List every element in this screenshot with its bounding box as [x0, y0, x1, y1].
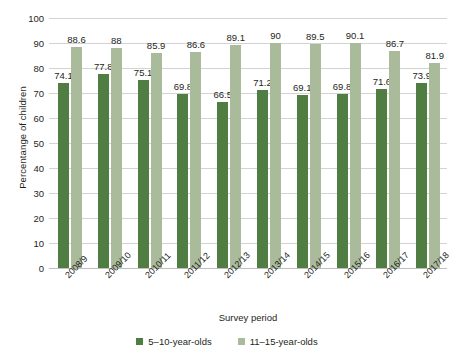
bar-value-label: 69.8: [333, 81, 352, 92]
bar-value-label: 85.9: [147, 40, 166, 51]
bar-group: 71.290: [248, 18, 288, 268]
legend-swatch-icon: [136, 338, 143, 345]
bar-value-label: 75.1: [134, 67, 153, 78]
bar-value-label: 71.2: [253, 77, 272, 88]
x-axis-tick-cell: 2015/16: [328, 271, 368, 307]
bar-group: 73.981.9: [407, 18, 447, 268]
x-axis-tick-cell: 2013/14: [248, 271, 288, 307]
bar-value-label: 90: [270, 30, 281, 41]
bar-group: 71.686.7: [367, 18, 407, 268]
bar-value-label: 88: [111, 35, 122, 46]
bar-chart-figure: Percentange of children 1009080706050403…: [0, 0, 454, 359]
y-axis-tick-label: 100: [28, 13, 44, 24]
x-axis-tick-cell: 2017/18: [407, 271, 447, 307]
bar-value-label: 90.1: [346, 30, 365, 41]
bar-group: 66.589.1: [208, 18, 248, 268]
bar-value-label: 89.1: [226, 32, 245, 43]
plot-area: 1009080706050403020100 74.188.677.88875.…: [49, 18, 447, 268]
y-axis-tick-label: 10: [33, 238, 44, 249]
bar: 69.1: [297, 95, 308, 268]
legend-item[interactable]: 5–10-year-olds: [136, 336, 211, 347]
bar-group: 69.886.6: [168, 18, 208, 268]
bar: 71.2: [257, 90, 268, 268]
bar: 66.5: [217, 102, 228, 268]
bar: 86.7: [389, 51, 400, 268]
bar: 73.9: [416, 83, 427, 268]
x-axis-tick-cell: 2011/12: [168, 271, 208, 307]
y-axis-tick-label: 80: [33, 63, 44, 74]
y-axis-title: Percentange of children: [17, 58, 28, 218]
x-axis-tick-cell: 2009/10: [89, 271, 129, 307]
legend-swatch-icon: [238, 338, 245, 345]
bar-value-label: 77.8: [94, 61, 113, 72]
bar-value-label: 89.5: [306, 31, 325, 42]
bar-group: 69.890.1: [328, 18, 368, 268]
bar: 85.9: [151, 53, 162, 268]
bar: 89.1: [230, 45, 241, 268]
y-axis-tick-label: 0: [39, 263, 44, 274]
bar: 86.6: [190, 52, 201, 269]
x-axis-tick-cell: 2014/15: [288, 271, 328, 307]
bar: 89.5: [310, 44, 321, 268]
x-axis-tick-cell: 2016/17: [367, 271, 407, 307]
bar: 88.6: [71, 47, 82, 269]
bar: 90: [270, 43, 281, 268]
bar-value-label: 86.6: [187, 39, 206, 50]
y-axis-tick-label: 90: [33, 38, 44, 49]
bar: 69.8: [337, 94, 348, 269]
bar: 90.1: [350, 43, 361, 268]
bar-value-label: 71.6: [373, 76, 392, 87]
legend-label: 5–10-year-olds: [148, 336, 211, 347]
bar: 75.1: [138, 80, 149, 268]
y-axis-tick-label: 20: [33, 213, 44, 224]
bar: 69.8: [177, 94, 188, 269]
y-axis-tick-label: 70: [33, 88, 44, 99]
y-axis-tick-label: 60: [33, 113, 44, 124]
bar-value-label: 81.9: [425, 50, 444, 61]
bar: 71.6: [376, 89, 387, 268]
bar-group: 77.888: [89, 18, 129, 268]
y-axis-tick-label: 40: [33, 163, 44, 174]
x-axis-tick-labels: 2008/92009/102010/112011/122012/132013/1…: [49, 271, 447, 307]
legend-label: 11–15-year-olds: [250, 336, 318, 347]
bar-value-label: 66.5: [213, 89, 232, 100]
bar: 74.1: [58, 83, 69, 268]
bar-value-label: 86.7: [386, 38, 405, 49]
bar-value-label: 69.1: [293, 82, 312, 93]
legend-item[interactable]: 11–15-year-olds: [238, 336, 318, 347]
bar: 77.8: [98, 74, 109, 269]
x-axis-title: Survey period: [49, 312, 447, 323]
bar-value-label: 73.9: [412, 70, 431, 81]
bar: 88: [111, 48, 122, 268]
bar-group: 75.185.9: [129, 18, 169, 268]
bar-value-label: 69.8: [174, 81, 193, 92]
bar-group: 69.189.5: [288, 18, 328, 268]
x-axis-tick-cell: 2008/9: [49, 271, 89, 307]
bar-group: 74.188.6: [49, 18, 89, 268]
chart-legend: 5–10-year-olds11–15-year-olds: [0, 336, 454, 347]
x-axis-tick-cell: 2010/11: [129, 271, 169, 307]
bar-groups: 74.188.677.88875.185.969.886.666.589.171…: [49, 18, 447, 268]
x-axis-tick-cell: 2012/13: [208, 271, 248, 307]
bar-value-label: 88.6: [67, 34, 86, 45]
bar: 81.9: [429, 63, 440, 268]
y-axis-tick-label: 50: [33, 138, 44, 149]
y-axis-tick-label: 30: [33, 188, 44, 199]
bar-value-label: 74.1: [54, 70, 73, 81]
